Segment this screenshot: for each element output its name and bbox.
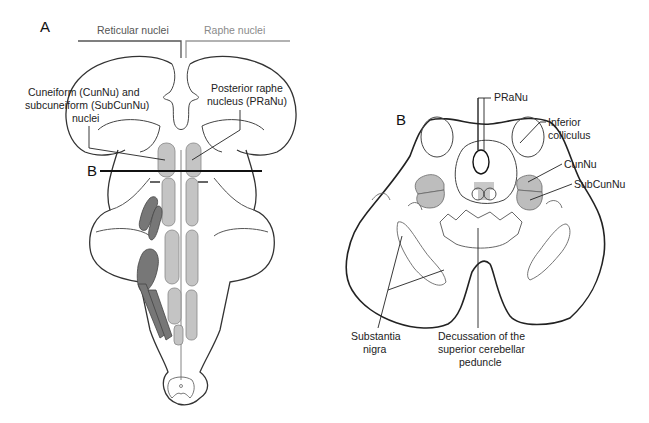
inferior-colliculus-label-line2: colliculus [548, 129, 591, 141]
cuneiform-label-line3: nuclei [72, 112, 99, 124]
inferior-colliculus-left [421, 117, 453, 157]
raphe-bracket [186, 41, 290, 58]
substantia-nigra-leader [378, 236, 444, 328]
substantia-nigra-left [397, 222, 446, 285]
decussation-region [440, 210, 522, 248]
raphe-label-line1: Posterior raphe [211, 82, 283, 94]
cunNu-right [517, 175, 542, 192]
substantia-nigra-label-line1: Substantia [351, 330, 401, 342]
panel-b-letter: B [396, 111, 406, 128]
panel-a: A Reticular nuclei Raphe nuclei [25, 18, 296, 405]
thalamus-curves [98, 120, 264, 152]
brainstem-diagram: A Reticular nuclei Raphe nuclei [0, 0, 649, 423]
inferior-colliculus-leader [520, 122, 546, 143]
substantia-nigra-right [528, 224, 570, 280]
raphe-right-1 [186, 178, 198, 226]
decussation-label-line2: superior cerebellar [438, 343, 525, 355]
raphe-segment-3 [168, 288, 181, 324]
subCunNu-right [517, 190, 543, 210]
panel-a-letter: A [40, 18, 50, 35]
brainstem-outline [90, 150, 275, 405]
cunNu-leader [528, 164, 562, 182]
panel-b: B PRaNu Inferior collicu [346, 91, 625, 368]
central-canal [180, 385, 183, 388]
raphe-segment-1 [162, 178, 175, 226]
decussation-label-line1: Decussation of the [438, 330, 525, 342]
raphe-label-line2: nucleus (PRaNu) [207, 95, 287, 107]
substantia-nigra-label-line2: nigra [363, 343, 387, 355]
section-marker-b: B [87, 162, 97, 179]
praNu-oval [473, 150, 489, 174]
raphe-blob [474, 182, 494, 200]
raphe-segment-2 [165, 230, 179, 284]
decussation-label-line3: peduncle [459, 356, 502, 368]
praNu-label: PRaNu [494, 91, 528, 103]
raphe-nuclei-label: Raphe nuclei [204, 24, 265, 36]
cuneiform-label-line1: Cuneiform (CunNu) and [28, 86, 140, 98]
peduncle-lines [96, 178, 268, 236]
raphe-segment-4 [174, 325, 183, 345]
cunNu-label: CunNu [564, 158, 597, 170]
raphe-right-2 [186, 230, 198, 286]
subCunNu-label: SubCunNu [574, 178, 626, 190]
raphe-right-3 [186, 290, 197, 340]
cuneiform-label-line2: subcuneiform (SubCunNu) [25, 99, 149, 111]
reticular-nuclei-label: Reticular nuclei [97, 24, 169, 36]
midbrain-section-outline [346, 119, 604, 328]
reticular-bracket [78, 41, 181, 58]
inferior-colliculus-label-line1: Inferior [548, 116, 581, 128]
midline-structure [164, 64, 199, 130]
